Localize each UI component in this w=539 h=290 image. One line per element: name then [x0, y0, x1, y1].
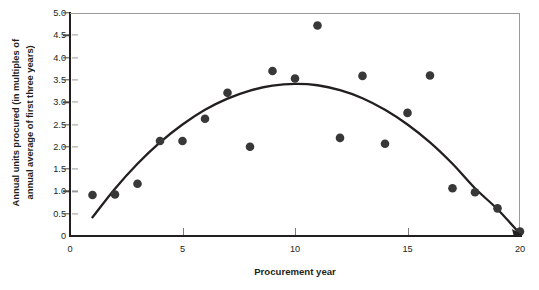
- y-tick-mark: [63, 146, 69, 147]
- scatter-chart-figure: Annual units procured (in multiples of a…: [0, 0, 539, 290]
- y-tick-mark-inner: [72, 191, 78, 192]
- plot-frame-right: [519, 13, 520, 236]
- x-tick-label: 20: [505, 244, 535, 254]
- y-tick-mark: [63, 101, 69, 102]
- y-tick-mark: [63, 12, 69, 13]
- y-tick-mark: [63, 124, 69, 125]
- x-tick-mark: [408, 228, 409, 235]
- y-tick-mark-inner: [72, 169, 78, 170]
- y-tick-mark-inner: [72, 102, 78, 103]
- y-tick-mark: [63, 168, 69, 169]
- y-axis-title: Annual units procured (in multiples of a…: [9, 39, 36, 206]
- y-tick-label: 0: [40, 231, 66, 241]
- x-tick-label: 10: [280, 244, 310, 254]
- y-tick-mark-inner: [72, 124, 78, 125]
- y-tick-mark-inner: [72, 57, 78, 58]
- x-tick-label: 15: [393, 244, 423, 254]
- y-tick-mark: [63, 191, 69, 192]
- plot-frame-top: [70, 13, 520, 14]
- y-tick-mark: [63, 35, 69, 36]
- y-tick-mark-inner: [72, 79, 78, 80]
- y-tick-mark: [63, 213, 69, 214]
- plot-area: [70, 13, 520, 236]
- x-tick-mark: [295, 228, 296, 235]
- x-tick-label: 0: [55, 244, 85, 254]
- y-axis-tick-labels: 00.51.01.52.02.53.03.54.04.55.0: [38, 0, 66, 245]
- x-tick-mark: [183, 228, 184, 235]
- y-tick-mark-inner: [72, 35, 78, 36]
- x-tick-label: 5: [168, 244, 198, 254]
- y-tick-mark: [63, 79, 69, 80]
- y-tick-mark-inner: [72, 213, 78, 214]
- y-tick-mark-inner: [72, 146, 78, 147]
- y-tick-mark: [63, 57, 69, 58]
- x-axis-title: Procurement year: [70, 266, 520, 277]
